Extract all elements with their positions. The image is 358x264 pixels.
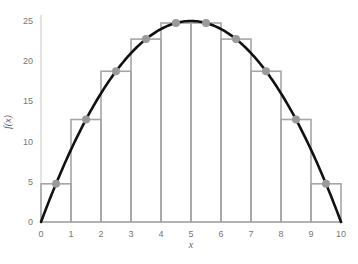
x-axis-label: x [188,239,194,250]
riemann-rectangle [41,184,71,222]
midpoint-marker [142,35,150,43]
y-tick-label: 10 [23,137,33,147]
riemann-rectangle [221,39,251,222]
x-tick-label: 0 [38,229,43,239]
y-tick-label: 0 [28,217,33,227]
y-tick-label: 15 [23,96,33,106]
riemann-rectangle [71,119,101,222]
riemann-rectangle [191,23,221,222]
riemann-rectangle [281,119,311,222]
midpoint-marker [112,67,120,75]
midpoint-marker [322,180,330,188]
x-tick-label: 9 [308,229,313,239]
y-axis-label: f(x) [2,114,14,129]
x-tick-label: 4 [158,229,163,239]
x-tick-label: 1 [68,229,73,239]
x-tick-label: 10 [336,229,346,239]
midpoint-marker [202,19,210,27]
midpoint-marker [232,35,240,43]
x-tick-label: 7 [248,229,253,239]
midpoint-marker [292,115,300,123]
midpoint-marker [82,115,90,123]
midpoint-marker [52,180,60,188]
riemann-rectangle [311,184,341,222]
riemann-sum-chart: 0123456789100510152025 x f(x) [0,0,358,264]
midpoint-marker [262,67,270,75]
y-tick-label: 20 [23,56,33,66]
x-tick-label: 6 [218,229,223,239]
riemann-rectangle [101,71,131,222]
x-tick-label: 5 [188,229,193,239]
riemann-rectangle [161,23,191,222]
y-tick-label: 5 [28,177,33,187]
y-tick-label: 25 [23,16,33,26]
midpoint-marker [172,19,180,27]
x-tick-label: 8 [278,229,283,239]
riemann-rectangle [131,39,161,222]
riemann-rectangle [251,71,281,222]
x-tick-label: 3 [128,229,133,239]
x-tick-label: 2 [98,229,103,239]
